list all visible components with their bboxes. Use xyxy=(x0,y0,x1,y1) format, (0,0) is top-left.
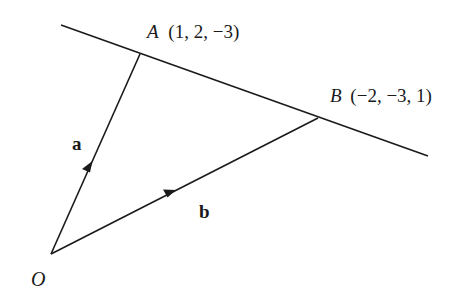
point-a-label: A (1, 2, −3) xyxy=(145,21,239,43)
point-a-coords: (1, 2, −3) xyxy=(168,21,239,43)
vector-a-line xyxy=(51,54,140,254)
point-b-name: B xyxy=(330,85,342,106)
vector-a-label: a xyxy=(72,133,82,154)
diagram-canvas: A (1, 2, −3) B (−2, −3, 1) O a b xyxy=(0,0,464,297)
vector-b-label: b xyxy=(199,201,210,222)
point-a-name: A xyxy=(145,21,159,42)
point-b-label: B (−2, −3, 1) xyxy=(330,85,432,107)
point-b-coords: (−2, −3, 1) xyxy=(350,85,432,107)
origin-label: O xyxy=(31,268,45,290)
vector-a-arrow-icon xyxy=(82,161,93,173)
vector-b-line xyxy=(51,118,318,254)
